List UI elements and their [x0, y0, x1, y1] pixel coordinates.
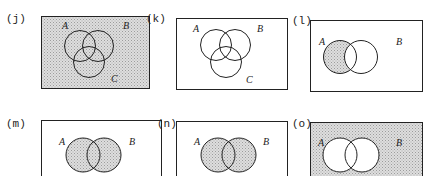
set-label-c: C: [246, 74, 253, 85]
set-label-a: A: [317, 137, 325, 148]
venn-diagram-m: A B: [41, 120, 151, 176]
venn-diagram-k: A B C: [176, 18, 288, 90]
set-label-a: A: [192, 23, 200, 34]
set-label-b: B: [129, 136, 135, 147]
panel-label-n: (n): [157, 119, 177, 130]
panel-label-l: (l): [292, 16, 312, 27]
panel-label-k: (k): [146, 14, 166, 25]
venn-diagram-l: A B: [310, 20, 423, 92]
set-label-b: B: [263, 136, 269, 147]
set-label-a: A: [193, 136, 201, 147]
panel-label-m: (m): [6, 119, 26, 130]
venn-diagram-j: A B C: [41, 16, 150, 89]
venn-diagram-n: A B: [176, 121, 288, 176]
set-label-b: B: [396, 137, 402, 148]
set-label-b: B: [123, 20, 129, 31]
panel-label-j: (j): [6, 14, 26, 25]
set-label-a: A: [61, 20, 69, 31]
universe-rect: [42, 17, 150, 89]
set-label-c: C: [111, 73, 118, 84]
venn-diagram-o: A B: [310, 122, 423, 176]
set-label-b: B: [257, 23, 263, 34]
set-label-a: A: [58, 136, 66, 147]
set-label-a: A: [318, 36, 326, 47]
set-label-b: B: [396, 36, 402, 47]
panel-label-o: (o): [292, 119, 312, 130]
